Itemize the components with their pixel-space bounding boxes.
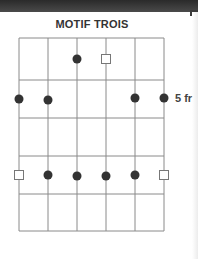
finger-dot-icon (15, 95, 24, 104)
finger-dot-icon (73, 172, 82, 181)
root-square-icon (102, 55, 111, 64)
finger-dot-icon (73, 55, 82, 64)
finger-dot-icon (160, 94, 169, 103)
root-square-icon (15, 171, 24, 180)
finger-dot-icon (44, 96, 53, 105)
finger-dot-icon (102, 172, 111, 181)
fretboard-diagram (0, 0, 198, 259)
finger-dot-icon (131, 94, 140, 103)
root-square-icon (160, 171, 169, 180)
fret-position-label: 5 fr (175, 92, 192, 104)
finger-dot-icon (44, 171, 53, 180)
finger-dot-icon (131, 171, 140, 180)
